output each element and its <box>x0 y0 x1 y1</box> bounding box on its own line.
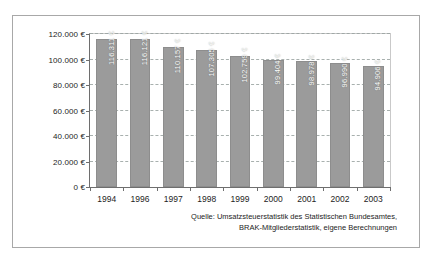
chart-plot-area: 0 €20.000 €40.000 €60.000 €80.000 €100.0… <box>89 33 391 188</box>
source-note-line-2: BRAK-Mitgliederstatistik, eigene Berechn… <box>191 223 397 234</box>
bar[interactable]: 107.305 € <box>196 50 217 187</box>
x-axis-tick-mark <box>323 187 324 191</box>
bar-value-label: 116.121 € <box>140 31 149 66</box>
x-axis-tick-mark <box>190 187 191 191</box>
x-axis-tick-label: 1998 <box>197 194 216 204</box>
bar-value-label: 99.404 € <box>273 54 282 85</box>
x-axis-tick-label: 2003 <box>364 194 383 204</box>
bar[interactable]: 94.906 € <box>363 66 384 187</box>
bar-value-label: 98.978 € <box>307 54 316 85</box>
figure-frame: 0 €20.000 €40.000 €60.000 €80.000 €100.0… <box>12 15 420 248</box>
bar-value-label: 107.305 € <box>207 42 216 77</box>
source-note: Quelle: Umsatzsteuerstatistik des Statis… <box>191 212 397 233</box>
bar[interactable]: 99.404 € <box>263 60 284 187</box>
y-axis-tick-label: 120.000 € <box>49 30 86 39</box>
x-axis-tick-label: 2000 <box>264 194 283 204</box>
x-axis-tick-label: 1996 <box>131 194 150 204</box>
bar-value-label: 96.990 € <box>340 57 349 88</box>
x-axis-tick-mark <box>223 187 224 191</box>
x-axis-tick-label: 2002 <box>331 194 350 204</box>
bar-value-label: 94.906 € <box>373 60 382 91</box>
x-axis-tick-mark <box>290 187 291 191</box>
bar[interactable]: 116.311 € <box>96 39 117 187</box>
bar-group: 102.759 €1999 <box>223 34 256 187</box>
x-axis-tick-mark <box>357 187 358 191</box>
bar[interactable]: 116.121 € <box>130 39 151 187</box>
bar-group: 107.305 €1998 <box>190 34 223 187</box>
bar-group: 116.311 €1994 <box>90 34 123 187</box>
bar-group: 116.121 €1996 <box>123 34 156 187</box>
figure-root: 0 €20.000 €40.000 €60.000 €80.000 €100.0… <box>0 0 434 268</box>
x-axis-tick-mark <box>390 187 391 191</box>
bars-layer: 116.311 €1994116.121 €1996110.157 €19971… <box>90 34 390 187</box>
y-axis-tick-label: 20.000 € <box>53 157 85 166</box>
bar-value-label: 116.311 € <box>107 31 116 65</box>
y-axis-tick-label: 80.000 € <box>53 81 85 90</box>
bar-group: 94.906 €2003 <box>357 34 390 187</box>
x-axis-tick-mark <box>90 187 91 191</box>
bar-group: 110.157 €1997 <box>157 34 190 187</box>
x-axis-tick-mark <box>157 187 158 191</box>
y-axis-tick-label: 100.000 € <box>49 55 86 64</box>
bar-group: 96.990 €2002 <box>323 34 356 187</box>
bar-value-label: 102.759 € <box>240 47 249 82</box>
bar[interactable]: 110.157 € <box>163 47 184 187</box>
y-axis-tick-label: 60.000 € <box>53 106 85 115</box>
x-axis-tick-label: 2001 <box>297 194 316 204</box>
x-axis-tick-mark <box>123 187 124 191</box>
y-axis-tick-label: 0 € <box>74 183 85 192</box>
x-axis-tick-label: 1997 <box>164 194 183 204</box>
x-axis-tick-label: 1994 <box>97 194 116 204</box>
bar[interactable]: 102.759 € <box>230 56 251 187</box>
x-axis-tick-label: 1999 <box>231 194 250 204</box>
bar[interactable]: 98.978 € <box>296 61 317 187</box>
bar-value-label: 110.157 € <box>173 38 182 73</box>
bar-group: 99.404 €2000 <box>257 34 290 187</box>
bar[interactable]: 96.990 € <box>330 63 351 187</box>
y-axis-tick-label: 40.000 € <box>53 132 85 141</box>
x-axis-tick-mark <box>257 187 258 191</box>
bar-group: 98.978 €2001 <box>290 34 323 187</box>
source-note-line-1: Quelle: Umsatzsteuerstatistik des Statis… <box>191 212 397 223</box>
